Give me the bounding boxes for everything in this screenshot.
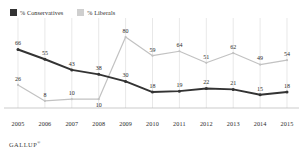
data-point xyxy=(232,88,235,91)
data-label: 21 xyxy=(230,80,236,86)
chart-container: % Conservatives % Liberals 2681010805964… xyxy=(0,0,303,157)
data-point xyxy=(151,91,154,94)
data-point xyxy=(205,87,208,90)
data-label: 8 xyxy=(43,92,46,98)
x-tick-label: 2014 xyxy=(254,120,267,127)
data-point xyxy=(178,90,181,93)
x-tick-label: 2009 xyxy=(119,120,132,127)
data-label: 15 xyxy=(257,86,263,92)
data-point xyxy=(232,52,234,54)
data-label: 38 xyxy=(96,65,102,71)
data-label: 30 xyxy=(123,72,129,78)
x-tick-label: 2005 xyxy=(12,120,25,127)
plot-area: 2681010805964516249546655433830181922211… xyxy=(0,18,303,120)
data-label: 62 xyxy=(230,44,236,50)
data-label: 43 xyxy=(69,61,75,67)
data-label: 80 xyxy=(123,28,129,34)
data-point xyxy=(17,84,19,86)
data-label: 22 xyxy=(203,79,209,85)
data-label: 49 xyxy=(257,55,263,61)
data-label: 10 xyxy=(69,90,75,96)
data-point xyxy=(178,50,180,52)
chart-legend: % Conservatives % Liberals xyxy=(10,6,115,18)
x-tick-label: 2011 xyxy=(173,120,186,127)
data-label: 18 xyxy=(284,83,290,89)
data-label: 18 xyxy=(150,83,156,89)
data-point xyxy=(205,62,207,64)
data-point xyxy=(17,48,20,51)
x-tick-label: 2015 xyxy=(281,120,294,127)
x-tick-label: 2010 xyxy=(146,120,159,127)
data-point xyxy=(286,91,289,94)
data-point xyxy=(259,63,261,65)
legend-label-liberals: % Liberals xyxy=(87,9,115,16)
data-label: 10 xyxy=(96,102,102,108)
source-label: GALLUP xyxy=(9,141,37,148)
x-tick-label: 2007 xyxy=(65,120,78,127)
data-label: 66 xyxy=(15,40,21,46)
line-chart-svg: 2681010805964516249546655433830181922211… xyxy=(0,18,303,120)
data-label: 19 xyxy=(176,82,182,88)
legend-label-conservatives: % Conservatives xyxy=(20,9,63,16)
data-point xyxy=(97,73,100,76)
x-axis-labels: 2005200620072008200920102011201220132014… xyxy=(0,120,303,134)
data-label: 55 xyxy=(42,50,48,56)
data-point xyxy=(43,58,46,61)
legend-swatch-liberals xyxy=(77,9,84,16)
x-tick-label: 2012 xyxy=(200,120,213,127)
data-point xyxy=(125,36,127,38)
legend-item-liberals: % Liberals xyxy=(77,9,115,16)
data-label: 26 xyxy=(15,76,21,82)
data-point xyxy=(124,80,127,83)
data-point xyxy=(286,59,288,61)
data-label: 59 xyxy=(150,47,156,53)
data-label: 51 xyxy=(203,54,209,60)
data-label: 64 xyxy=(176,42,182,48)
data-point xyxy=(71,98,73,100)
legend-item-conservatives: % Conservatives xyxy=(10,9,63,16)
legend-swatch-conservatives xyxy=(10,9,17,16)
data-point xyxy=(259,93,262,96)
x-tick-label: 2008 xyxy=(92,120,105,127)
data-point xyxy=(70,68,73,71)
data-label: 54 xyxy=(284,51,290,57)
x-tick-label: 2006 xyxy=(39,120,52,127)
data-point xyxy=(151,55,153,57)
x-tick-label: 2013 xyxy=(227,120,240,127)
registered-mark: ® xyxy=(37,140,41,145)
data-point xyxy=(98,98,100,100)
source-attribution: GALLUP® xyxy=(9,140,41,148)
data-point xyxy=(44,100,46,102)
